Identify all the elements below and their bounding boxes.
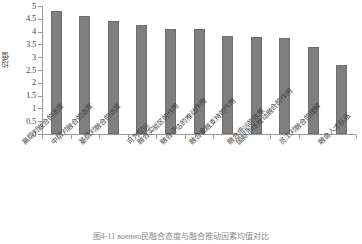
figure-caption: 图4-11 военно民融合态度与融合推动因素均值对比 — [0, 232, 362, 242]
y-tick-label: 4 — [0, 27, 36, 36]
y-tick-label: 4.5 — [0, 14, 36, 23]
bar — [136, 25, 147, 134]
x-tick-mark — [327, 135, 328, 139]
x-tick-mark — [270, 135, 271, 139]
y-tick-label: 2.5 — [0, 66, 36, 75]
bar — [308, 47, 319, 134]
y-tick-label: 1.5 — [0, 91, 36, 100]
bar — [194, 29, 205, 134]
bar — [279, 38, 290, 135]
y-tick-label: 5 — [0, 2, 36, 11]
x-tick-mark — [242, 135, 243, 139]
x-tick-mark — [185, 135, 186, 139]
x-tick-mark — [42, 135, 43, 139]
y-tick-label: 3.5 — [0, 40, 36, 49]
chart-figure: 均值 54.543.532.521.510.50 高层对融合的态度中层对融合的态… — [0, 0, 362, 244]
y-tick-label: 3 — [0, 53, 36, 62]
y-tick-label: 2 — [0, 78, 36, 87]
x-tick-mark — [299, 135, 300, 139]
x-tick-mark — [99, 135, 100, 139]
x-tick-mark — [356, 135, 357, 139]
y-tick-label: 0.5 — [0, 117, 36, 126]
x-tick-mark — [156, 135, 157, 139]
x-tick-mark — [71, 135, 72, 139]
y-axis-tick-labels: 54.543.532.521.510.50 — [0, 0, 36, 141]
x-axis-category-labels: 高层对融合的态度中层对融合的态度基层对融合的态度可为空间融合实验区的作用融合评估… — [0, 135, 362, 215]
x-tick-mark — [213, 135, 214, 139]
bar — [222, 36, 233, 134]
y-tick-label: 1 — [0, 104, 36, 113]
x-tick-mark — [128, 135, 129, 139]
